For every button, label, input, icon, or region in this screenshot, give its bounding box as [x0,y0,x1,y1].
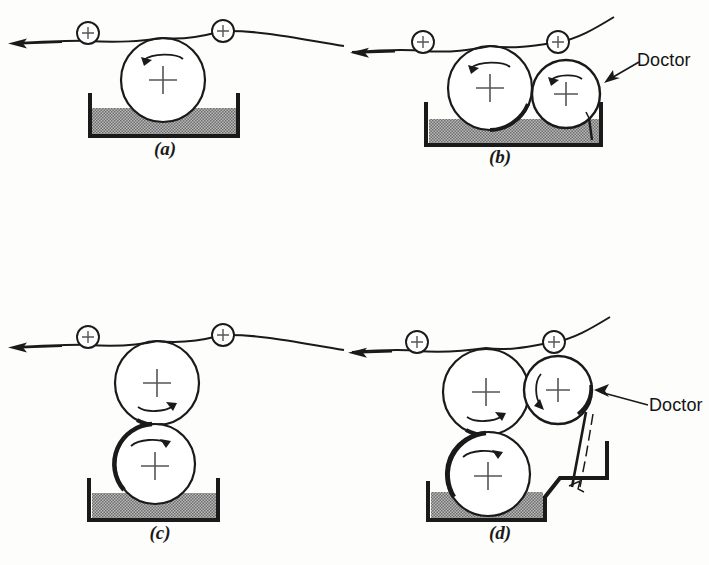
web-direction-line [360,352,392,353]
doctor-leader-line [600,392,648,405]
web-path [352,17,614,52]
doctor-label-d: Doctor [649,395,703,416]
roll-coating-figure: (a) [0,0,709,565]
web-path [352,317,610,352]
doctor-leader-arrow-icon [604,70,620,83]
panel-d-caption: (d) [355,522,645,544]
doctor-leader-arrow-icon [594,384,609,397]
doctor-blade [572,412,586,487]
panel-b-caption: (b) [355,146,645,168]
doctor-label-b: Doctor [637,50,691,71]
web-direction-line [362,52,395,53]
panel-d-drawing [0,300,709,550]
